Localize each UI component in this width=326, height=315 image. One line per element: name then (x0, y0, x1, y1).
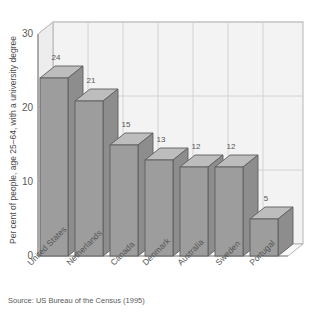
bar-front-face (110, 145, 138, 256)
bar-value-label: 24 (52, 53, 61, 62)
bar-value-label: 15 (122, 120, 131, 129)
y-tick-label-30: 30 (22, 28, 34, 39)
bar-value-label: 21 (87, 76, 96, 85)
bar-value-label: 5 (264, 194, 269, 203)
bar-value-label: 12 (227, 142, 236, 151)
y-tick-label-20: 20 (22, 102, 34, 113)
bar-chart-3d: 30 20 10 0 Per cent of people, age 25–64… (0, 0, 326, 315)
bar-value-label: 13 (157, 135, 166, 144)
y-axis-title: Per cent of people, age 25–64, with a un… (8, 36, 18, 244)
bar-value-label: 12 (192, 142, 201, 151)
chart-container: 30 20 10 0 Per cent of people, age 25–64… (0, 0, 326, 315)
source-note: Source: US Bureau of the Census (1995) (8, 296, 145, 305)
y-tick-label-10: 10 (22, 176, 34, 187)
